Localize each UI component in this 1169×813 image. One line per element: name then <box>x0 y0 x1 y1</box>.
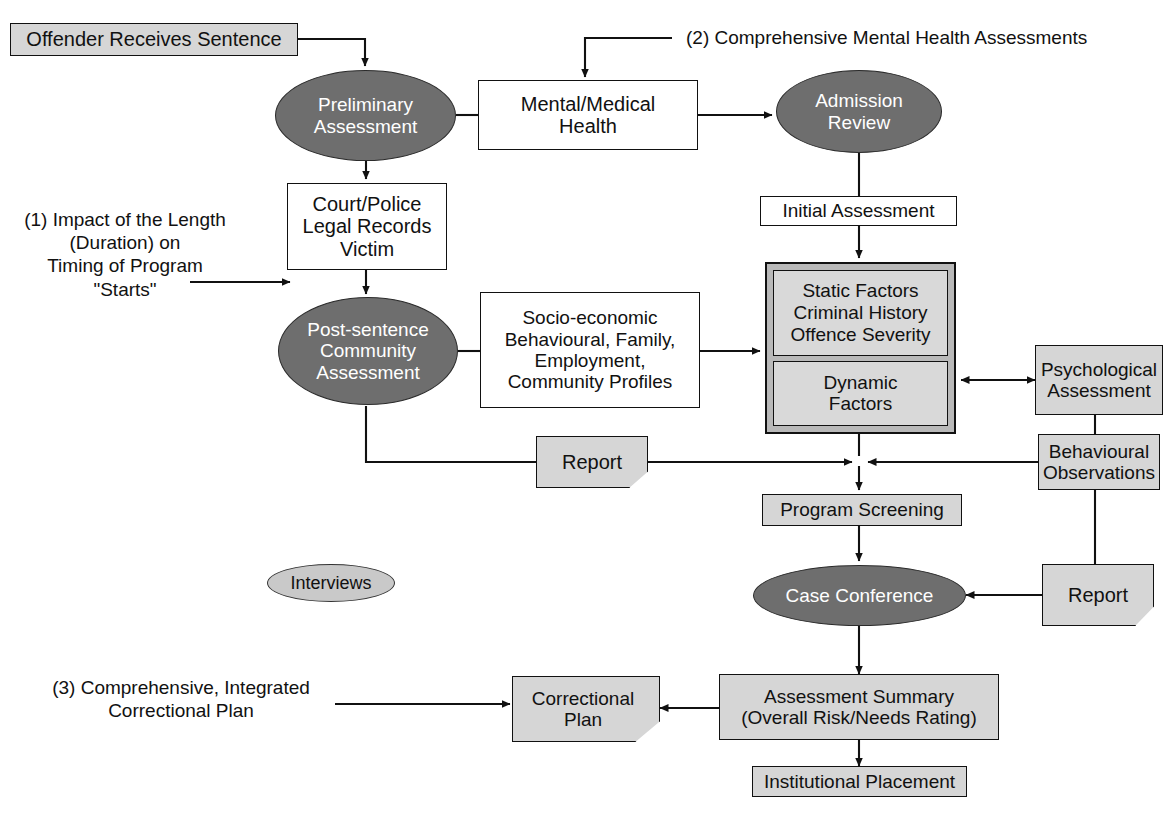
node-initial-assessment[interactable]: Initial Assessment <box>760 196 957 226</box>
node-preliminary-assessment[interactable]: Preliminary Assessment <box>275 70 456 161</box>
node-interviews[interactable]: Interviews <box>267 564 395 602</box>
node-report-left[interactable]: Report <box>536 436 648 488</box>
node-mental-medical-health[interactable]: Mental/Medical Health <box>478 80 698 150</box>
node-risk-factors-panel: Static Factors Criminal History Offence … <box>765 262 956 434</box>
node-report-right-label: Report <box>1042 564 1154 626</box>
node-case-conference[interactable]: Case Conference <box>753 565 966 626</box>
node-post-sentence-community-assessment[interactable]: Post-sentence Community Assessment <box>278 297 458 405</box>
annotation-3: (3) Comprehensive, Integrated Correction… <box>16 676 346 722</box>
node-admission-review[interactable]: Admission Review <box>776 70 942 153</box>
node-socio-economic-profiles[interactable]: Socio-economic Behavioural, Family, Empl… <box>480 292 700 408</box>
node-correctional-plan-label: Correctional Plan <box>512 676 660 742</box>
node-psychological-assessment[interactable]: Psychological Assessment <box>1035 345 1163 415</box>
node-institutional-placement[interactable]: Institutional Placement <box>752 766 967 797</box>
node-program-screening[interactable]: Program Screening <box>762 494 962 526</box>
node-offender-receives-sentence[interactable]: Offender Receives Sentence <box>10 23 298 56</box>
node-court-police-legal-records-victim[interactable]: Court/Police Legal Records Victim <box>287 183 447 270</box>
node-report-left-label: Report <box>536 436 648 488</box>
flowchart-canvas: Offender Receives Sentence Preliminary A… <box>0 0 1169 813</box>
node-static-factors[interactable]: Static Factors Criminal History Offence … <box>773 270 948 356</box>
node-correctional-plan[interactable]: Correctional Plan <box>512 676 660 742</box>
annotation-1: (1) Impact of the Length (Duration) on T… <box>10 208 240 301</box>
node-behavioural-observations[interactable]: Behavioural Observations <box>1038 434 1160 490</box>
annotation-2: (2) Comprehensive Mental Health Assessme… <box>686 26 1087 49</box>
node-assessment-summary[interactable]: Assessment Summary (Overall Risk/Needs R… <box>719 674 999 740</box>
node-dynamic-factors[interactable]: Dynamic Factors <box>773 361 948 426</box>
node-report-right[interactable]: Report <box>1042 564 1154 626</box>
